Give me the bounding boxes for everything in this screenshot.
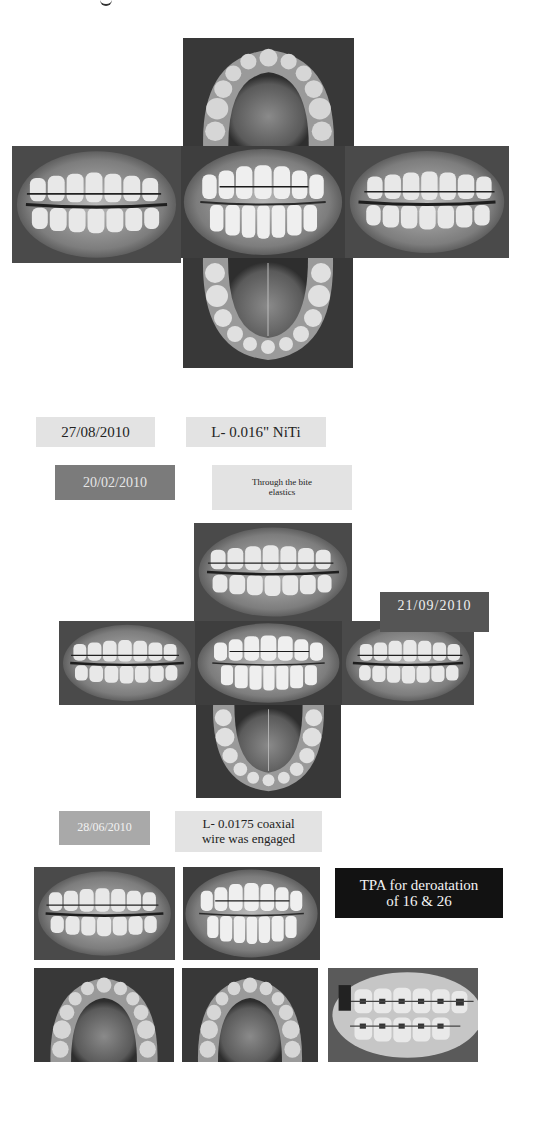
note-line-2: elastics xyxy=(269,488,296,498)
tooth-photo-icon xyxy=(183,258,353,368)
date-text: 28/06/2010 xyxy=(77,821,132,834)
tooth-photo-icon xyxy=(59,621,195,705)
grid-upper-occlusal-photo xyxy=(182,968,318,1062)
date-text: 27/08/2010 xyxy=(61,424,129,441)
date-text: 21/09/2010 xyxy=(398,598,472,613)
upper-occlusal-photo xyxy=(183,38,354,146)
lower-occlusal-photo xyxy=(183,258,353,368)
cropped-text-fragment xyxy=(100,0,112,6)
tooth-photo-icon xyxy=(183,38,354,146)
elastics-note-label: Through the bite elastics xyxy=(212,465,352,510)
tpa-line-1: TPA for deroatation xyxy=(360,877,479,894)
tooth-photo-icon xyxy=(194,523,352,621)
left-buccal-photo xyxy=(342,621,474,705)
tpa-derotation-label: TPA for deroatation of 16 & 26 xyxy=(335,868,503,918)
left-buccal-photo xyxy=(345,146,509,258)
tooth-photo-icon xyxy=(342,621,474,705)
frontal-photo xyxy=(181,146,345,258)
grid-upper-occlusal-tpa-photo xyxy=(34,968,174,1062)
top-buccal-photo xyxy=(194,523,352,621)
wire-line-2: wire was engaged xyxy=(202,832,295,846)
right-buccal-photo xyxy=(59,621,195,705)
date-label-27-08-2010: 27/08/2010 xyxy=(36,417,155,447)
lower-occlusal-photo xyxy=(196,705,341,798)
tooth-photo-icon xyxy=(196,705,341,798)
frontal-photo xyxy=(195,621,342,705)
tooth-photo-icon xyxy=(345,146,509,258)
wire-line-1: L- 0.0175 coaxial xyxy=(202,817,294,831)
date-label-28-06-2010: 28/06/2010 xyxy=(59,811,150,845)
grid-left-buccal-braces-photo xyxy=(328,968,478,1062)
grid-frontal-photo xyxy=(183,867,320,960)
tooth-photo-icon xyxy=(328,968,478,1062)
tooth-photo-icon xyxy=(12,146,181,263)
tooth-photo-icon xyxy=(183,867,320,960)
date-text: 20/02/2010 xyxy=(83,475,147,490)
wire-label-niti: L- 0.016" NiTi xyxy=(186,417,326,447)
tooth-photo-icon xyxy=(34,867,175,960)
tooth-photo-icon xyxy=(182,968,318,1062)
tooth-photo-icon xyxy=(34,968,174,1062)
tooth-photo-icon xyxy=(181,146,345,258)
wire-text: L- 0.016" NiTi xyxy=(211,424,300,441)
date-badge-21-09-2010: 21/09/2010 xyxy=(380,592,489,632)
right-buccal-photo xyxy=(12,146,181,263)
tpa-line-2: of 16 & 26 xyxy=(386,893,451,910)
date-label-20-02-2010: 20/02/2010 xyxy=(55,465,175,500)
grid-right-buccal-photo xyxy=(34,867,175,960)
coaxial-wire-label: L- 0.0175 coaxial wire was engaged xyxy=(175,811,322,852)
tooth-photo-icon xyxy=(195,621,342,705)
